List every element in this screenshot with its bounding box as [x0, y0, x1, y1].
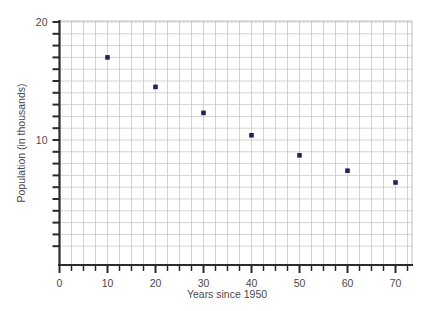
x-axis-title: Years since 1950: [187, 288, 267, 300]
y-axis-title: Population (in thousands): [15, 83, 27, 202]
x-tick-label: 10: [102, 277, 114, 289]
scatter-plot-figure: 1020 010203040506070 Years since 1950 Po…: [0, 0, 431, 311]
x-tick-label: 60: [342, 277, 354, 289]
data-point: [153, 85, 158, 90]
y-tick-label: 20: [36, 16, 48, 28]
x-tick-label: 0: [57, 277, 63, 289]
data-point: [201, 111, 206, 116]
chart-canvas: 1020 010203040506070 Years since 1950 Po…: [0, 0, 431, 311]
x-tick-label: 70: [390, 277, 402, 289]
y-tick-label: 10: [36, 134, 48, 146]
data-point: [105, 55, 110, 60]
x-tick-label: 20: [150, 277, 162, 289]
x-tick-label: 50: [294, 277, 306, 289]
data-point: [393, 180, 398, 185]
data-point: [345, 168, 350, 173]
data-point: [249, 133, 254, 138]
data-point: [297, 153, 302, 158]
